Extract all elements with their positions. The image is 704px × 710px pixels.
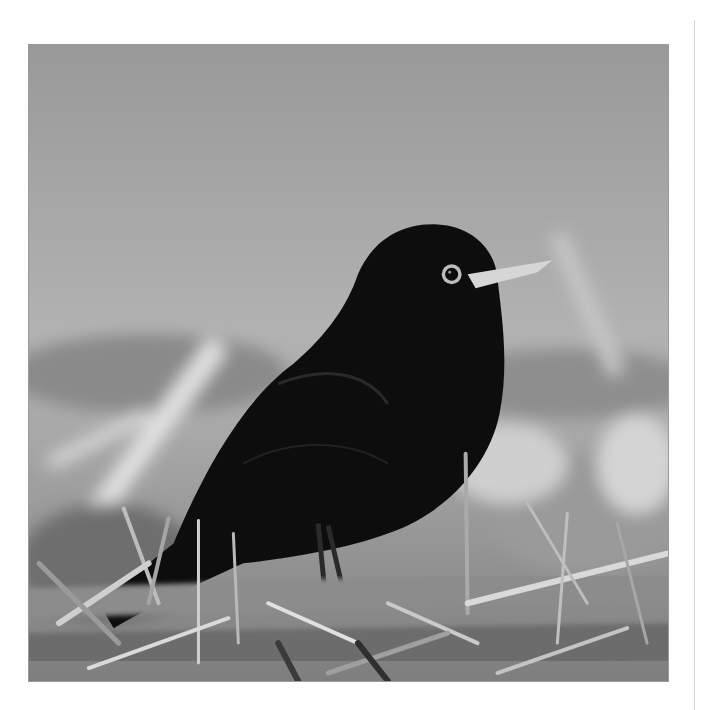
page-edge-rule bbox=[694, 20, 695, 710]
eye bbox=[445, 268, 458, 281]
photo-scene bbox=[29, 45, 668, 681]
blackbird-photo bbox=[28, 44, 669, 682]
